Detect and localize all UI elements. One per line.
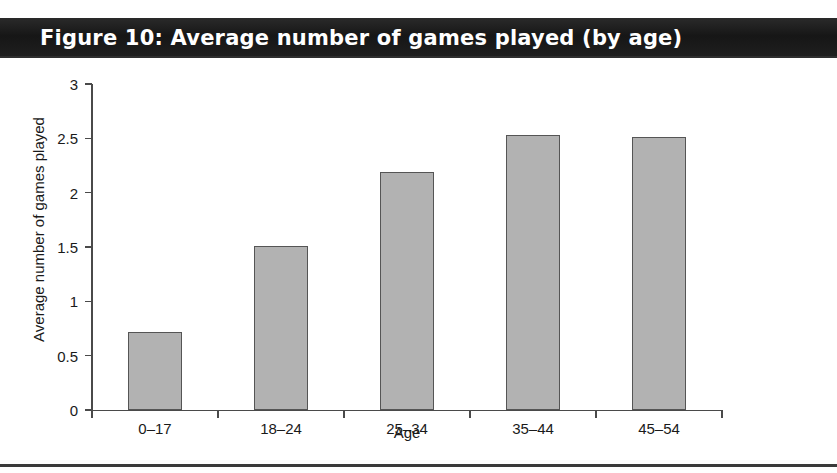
- bottom-divider: [0, 464, 837, 467]
- bar-chart: Average number of games played 00.511.52…: [0, 58, 837, 458]
- x-tick: [595, 410, 597, 418]
- x-axis-title: Age: [92, 424, 722, 441]
- plot-area: 00.511.522.53 0–1718–2425–3435–4445–54: [92, 84, 722, 410]
- y-tick-label: 1: [70, 293, 78, 310]
- y-tick: [85, 246, 92, 248]
- x-tick: [343, 410, 345, 418]
- y-axis-title: Average number of games played: [30, 80, 47, 380]
- bar: [506, 135, 560, 410]
- y-tick-label: 3: [70, 76, 78, 93]
- y-tick-label: 2: [70, 184, 78, 201]
- x-tick: [721, 410, 723, 418]
- figure-title-bar: Figure 10: Average number of games playe…: [0, 18, 837, 58]
- x-tick: [217, 410, 219, 418]
- y-tick: [85, 301, 92, 303]
- y-tick: [85, 355, 92, 357]
- bar: [128, 332, 182, 410]
- y-tick: [85, 192, 92, 194]
- bar: [254, 246, 308, 410]
- bar: [380, 172, 434, 410]
- y-tick-label: 2.5: [57, 130, 78, 147]
- y-tick: [85, 83, 92, 85]
- y-tick: [85, 138, 92, 140]
- y-tick-label: 1.5: [57, 239, 78, 256]
- x-tick: [91, 410, 93, 418]
- x-tick: [469, 410, 471, 418]
- y-tick-label: 0: [70, 402, 78, 419]
- page-title: Figure 10: Average number of games playe…: [40, 26, 682, 50]
- bar: [632, 137, 686, 410]
- y-tick-label: 0.5: [57, 347, 78, 364]
